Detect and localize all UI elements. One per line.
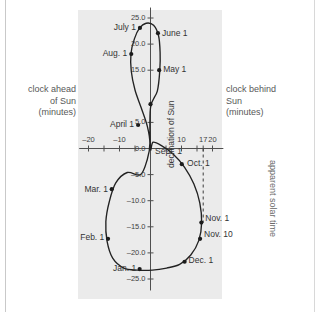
- x-axis-right-caption-line1: clock behind: [226, 84, 312, 96]
- month-label: Dec. 1: [189, 255, 214, 265]
- y-tick-label: 0.0: [111, 144, 146, 153]
- y-tick-label: –5.0: [111, 170, 146, 179]
- x-axis-right-caption-line2: Sun: [226, 96, 312, 108]
- data-point-marker: [180, 162, 184, 166]
- x-axis-right-caption-line3: (minutes): [226, 107, 312, 119]
- data-point-marker: [148, 102, 152, 106]
- month-label: Nov. 10: [204, 229, 233, 239]
- month-label: April 1: [86, 119, 134, 129]
- x-axis-left-caption-line2: of Sun: [10, 96, 76, 108]
- data-point-marker: [157, 68, 161, 72]
- data-point-marker: [129, 52, 133, 56]
- month-label: Oct. 1: [187, 158, 210, 168]
- y-tick-label: –20.0: [111, 248, 146, 257]
- data-point-marker: [156, 31, 160, 35]
- y-tick-label: –25.0: [111, 274, 146, 283]
- y-tick-label: 20.0: [111, 39, 146, 48]
- x-tick-label: 10: [171, 135, 193, 144]
- x-tick-label: 20: [202, 135, 224, 144]
- y-tick-label: 25.0: [111, 13, 146, 22]
- y-tick-label: –10.0: [111, 196, 146, 205]
- y-tick-label: 15.0: [111, 65, 146, 74]
- x-axis-right-caption: clock behind Sun (minutes): [226, 84, 312, 119]
- data-point-marker: [198, 237, 202, 241]
- data-point-marker: [199, 221, 203, 225]
- data-point-marker: [110, 187, 114, 191]
- y-tick-label: –15.0: [111, 222, 146, 231]
- month-label: Feb. 1: [56, 232, 104, 242]
- month-label: Mar. 1: [60, 184, 108, 194]
- x-tick-label: –20: [78, 135, 100, 144]
- month-label: Aug. 1: [79, 48, 127, 58]
- x-axis-left-caption-line3: (minutes): [10, 107, 76, 119]
- month-label: Jan. 1: [88, 263, 136, 273]
- data-point-marker: [138, 267, 142, 271]
- month-label: July 1: [88, 22, 136, 32]
- month-label: Nov. 1: [205, 213, 229, 223]
- data-point-marker: [106, 237, 110, 241]
- data-point-marker: [138, 26, 142, 30]
- month-label: Sept. 1: [155, 146, 182, 156]
- data-point-marker: [183, 260, 187, 264]
- apparent-solar-time-label: apparent solar time: [268, 160, 278, 280]
- x-tick-label: –10: [109, 135, 131, 144]
- x-axis-left-caption-line1: clock ahead: [10, 84, 76, 96]
- month-label: June 1: [162, 28, 188, 38]
- x-axis-left-caption: clock ahead of Sun (minutes): [10, 84, 76, 119]
- month-label: May 1: [163, 64, 186, 74]
